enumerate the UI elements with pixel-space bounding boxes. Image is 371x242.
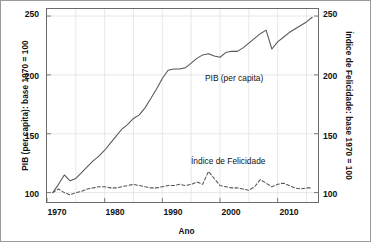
x-tick-1980: 1980 — [95, 207, 135, 217]
y-tick-left-100: 100 — [9, 189, 39, 199]
y-tick-right-100: 100 — [323, 189, 353, 199]
series-lines — [53, 17, 312, 195]
y-tick-right-250: 250 — [323, 9, 353, 19]
y-tick-left-150: 150 — [9, 131, 39, 141]
x-tick-2000: 2000 — [211, 207, 251, 217]
y-axis-right-title: Índice de Felicidade: base 1970 = 100 — [344, 11, 353, 201]
series-path-0 — [53, 17, 312, 192]
y-tick-right-200: 200 — [323, 71, 353, 81]
y-tick-left-250: 250 — [9, 9, 39, 19]
y-tick-right-150: 150 — [323, 131, 353, 141]
x-tick-1970: 1970 — [37, 207, 77, 217]
y-axis-left-title: PIB (per capita): base 1970 = 100 — [21, 11, 30, 201]
plot-area — [46, 8, 319, 203]
y-tick-left-200: 200 — [9, 71, 39, 81]
plot-svg — [47, 9, 318, 202]
series-path-1 — [53, 171, 312, 195]
x-tick-2010: 2010 — [269, 207, 309, 217]
x-axis-title: Ano — [1, 227, 371, 236]
x-tick-1990: 1990 — [153, 207, 193, 217]
gridlines — [47, 9, 318, 202]
series-label-felicidade: Índice de Felicidade — [191, 156, 266, 166]
chart-figure: PIB (per capita): base 1970 = 100 Índice… — [0, 0, 371, 242]
series-label-pib: PIB (per capita) — [205, 73, 263, 83]
